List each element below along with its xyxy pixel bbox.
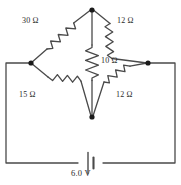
wire-bottom-right-upper xyxy=(130,63,147,66)
wire-bottom-left-lower xyxy=(81,81,91,116)
wire-bottom-left-upper xyxy=(31,63,48,77)
resistor-top-left xyxy=(47,23,76,49)
battery-voltage-label: 6.0 V xyxy=(71,168,91,178)
circuit-diagram-figure: 30 Ω 12 Ω 10 Ω 15 Ω 12 Ω 6.0 V xyxy=(0,0,181,185)
resistor-label-top-right: 12 Ω xyxy=(117,16,134,25)
wire-top-left-lower xyxy=(31,49,47,63)
node-dot-left xyxy=(28,60,33,65)
wire-top-left-upper xyxy=(74,11,90,24)
node-dot-right xyxy=(145,60,150,65)
resistor-label-top-left: 30 Ω xyxy=(22,16,39,25)
wire-top-right-upper xyxy=(94,11,110,24)
node-dot-bottom xyxy=(89,114,94,119)
resistor-label-center: 10 Ω xyxy=(101,56,118,65)
resistor-label-bottom-left: 15 Ω xyxy=(19,90,36,99)
wire-outer-right xyxy=(103,63,175,163)
resistor-bottom-right xyxy=(104,65,130,83)
wire-bottom-right-lower xyxy=(93,82,104,116)
wire-outer-left xyxy=(6,63,78,163)
resistor-bottom-left xyxy=(48,75,81,83)
resistor-label-bottom-right: 12 Ω xyxy=(116,90,133,99)
resistor-center xyxy=(86,45,99,81)
node-dot-top xyxy=(89,7,94,12)
resistor-top-right xyxy=(105,24,114,59)
